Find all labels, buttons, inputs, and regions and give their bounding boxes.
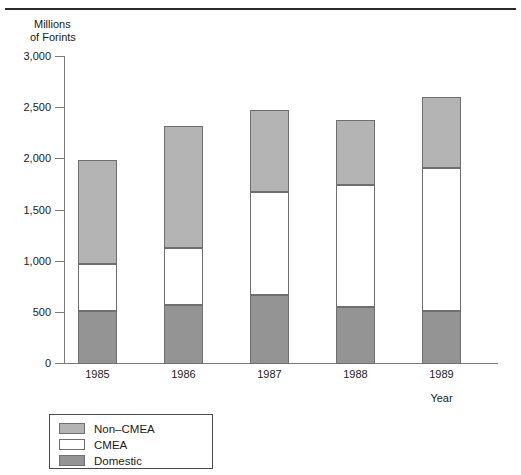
legend-swatch-cmea	[59, 439, 85, 450]
legend-label-cmea: CMEA	[94, 439, 127, 451]
x-axis-label-1987: 1987	[240, 368, 300, 380]
legend-swatch-domestic	[59, 455, 85, 466]
x-axis-label-1988: 1988	[326, 368, 386, 380]
y-axis-tick-label: 3,000	[0, 50, 51, 62]
y-axis-tick	[55, 158, 64, 159]
y-axis-tick	[55, 210, 64, 211]
x-axis-label-1986: 1986	[154, 368, 214, 380]
bar-segment-cmea-1989[interactable]	[422, 168, 461, 311]
y-axis-caption-line1: Millions	[34, 18, 140, 31]
legend-item-noncmea[interactable]: Non–CMEA	[59, 421, 212, 436]
x-axis-label-1989: 1989	[412, 368, 472, 380]
y-axis-tick-label: 2,000	[0, 152, 51, 164]
legend-item-cmea[interactable]: CMEA	[59, 437, 212, 452]
y-axis-tick	[55, 261, 64, 262]
legend-label-domestic: Domestic	[94, 455, 142, 467]
y-axis-tick-label: 0	[0, 357, 51, 369]
y-axis-caption-line2: of Forints	[30, 31, 140, 44]
y-axis-tick-label: 1,500	[0, 204, 51, 216]
y-axis-tick	[55, 363, 64, 364]
chart-legend: Non–CMEACMEADomestic	[49, 414, 213, 469]
bar-segment-domestic-1986[interactable]	[164, 305, 203, 364]
bar-segment-cmea-1986[interactable]	[164, 248, 203, 304]
bar-1989[interactable]	[422, 97, 461, 364]
legend-swatch-noncmea	[59, 423, 85, 434]
y-axis-tick-label: 500	[0, 306, 51, 318]
x-axis-label-1985: 1985	[68, 368, 128, 380]
y-axis-line	[64, 56, 65, 363]
bar-segment-cmea-1988[interactable]	[336, 185, 375, 307]
bar-1988[interactable]	[336, 120, 375, 364]
y-axis-tick	[55, 56, 64, 57]
bar-segment-noncmea-1986[interactable]	[164, 126, 203, 248]
y-axis-tick	[55, 107, 64, 108]
y-axis-tick-label: 2,500	[0, 101, 51, 113]
bar-segment-noncmea-1989[interactable]	[422, 97, 461, 168]
bar-segment-noncmea-1988[interactable]	[336, 120, 375, 184]
y-axis-caption: Millions of Forints	[30, 18, 140, 44]
y-axis-tick	[55, 312, 64, 313]
bar-segment-noncmea-1987[interactable]	[250, 110, 289, 192]
y-axis-tick-label: 1,000	[0, 255, 51, 267]
bar-segment-cmea-1985[interactable]	[78, 264, 117, 312]
bar-segment-domestic-1985[interactable]	[78, 311, 117, 364]
plot-area: 05001,0001,5002,0002,5003,000 1985198619…	[64, 56, 498, 364]
header-rule	[5, 8, 516, 10]
bar-1985[interactable]	[78, 160, 117, 364]
bar-1987[interactable]	[250, 110, 289, 364]
bar-segment-domestic-1988[interactable]	[336, 307, 375, 364]
bar-segment-domestic-1987[interactable]	[250, 295, 289, 364]
bar-1986[interactable]	[164, 126, 203, 364]
legend-item-domestic[interactable]: Domestic	[59, 453, 212, 468]
legend-label-noncmea: Non–CMEA	[94, 423, 155, 435]
bar-segment-cmea-1987[interactable]	[250, 192, 289, 295]
bar-segment-noncmea-1985[interactable]	[78, 160, 117, 264]
stacked-bar-chart-figure: Millions of Forints 05001,0001,5002,0002…	[0, 0, 521, 475]
x-axis-caption: Year	[412, 392, 472, 404]
bar-segment-domestic-1989[interactable]	[422, 311, 461, 364]
